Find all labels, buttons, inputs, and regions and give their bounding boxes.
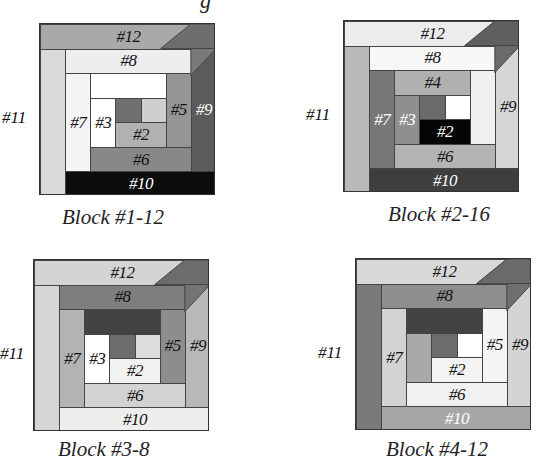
- patch-7: #7: [381, 308, 407, 407]
- patch-4: #4: [394, 70, 470, 96]
- patch-8: #8: [59, 285, 186, 311]
- patch-11: [40, 49, 66, 195]
- patch-2: #2: [419, 119, 470, 145]
- patch-10: #10: [369, 168, 519, 192]
- patch-3: #3: [84, 334, 110, 384]
- quilt-block-4: #12#8#9#10#7#6#5#2: [355, 258, 531, 430]
- patch-9: #9: [191, 49, 215, 173]
- patch-10: #10: [381, 406, 531, 430]
- patch-5: #5: [166, 73, 192, 148]
- outside-label-11: #11: [0, 344, 24, 364]
- top-text-fragment: g: [200, 0, 211, 14]
- patch-7: #7: [369, 70, 395, 169]
- patch-8: #8: [381, 284, 508, 310]
- quilt-block-3: #12#8#9#10#7#6#5#3#2: [33, 259, 209, 431]
- patch-9: #9: [495, 46, 519, 170]
- quilt-block-1: #12#8#9#10#7#6#5#3#2: [39, 23, 215, 195]
- patch-8: #8: [369, 46, 496, 72]
- patch-7: #7: [59, 309, 85, 408]
- patch-4: [90, 73, 166, 99]
- patch-12: #12: [356, 259, 531, 285]
- patch-2: #2: [115, 122, 166, 148]
- patch-c: [115, 98, 141, 124]
- patch-6: #6: [394, 144, 496, 170]
- patch-4: [84, 309, 160, 335]
- patch-1: [445, 95, 471, 121]
- patch-10: #10: [59, 407, 209, 431]
- patch-12: #12: [344, 21, 519, 47]
- patch-3: #3: [90, 98, 116, 148]
- patch-11: [34, 285, 60, 431]
- patch-10: #10: [65, 171, 215, 195]
- patch-5: #5: [482, 308, 508, 383]
- patch-3: [406, 333, 432, 383]
- patch-c: [109, 334, 135, 360]
- patch-9: #9: [507, 284, 531, 408]
- patch-1: [135, 334, 161, 360]
- block-caption: Block #4-12: [386, 437, 488, 462]
- patch-12: #12: [40, 24, 215, 50]
- patch-7: #7: [65, 73, 91, 172]
- patch-1: [141, 98, 167, 124]
- patch-c: [419, 95, 445, 121]
- block-caption: Block #3-8: [58, 437, 150, 462]
- patch-11: [344, 46, 370, 192]
- block-caption: Block #1-12: [62, 205, 164, 230]
- outside-label-11: #11: [2, 108, 26, 128]
- outside-label-11: #11: [318, 343, 342, 363]
- patch-2: #2: [109, 358, 160, 384]
- patch-11: [356, 284, 382, 430]
- patch-4: [406, 308, 482, 334]
- patch-5: [470, 70, 496, 145]
- patch-5: #5: [160, 309, 186, 384]
- patch-c: [431, 333, 457, 359]
- patch-6: #6: [90, 147, 192, 173]
- outside-label-11: #11: [306, 105, 330, 125]
- patch-2: #2: [431, 357, 482, 383]
- quilt-block-2: #12#8#9#10#7#6#4#3#2: [343, 20, 519, 192]
- patch-3: #3: [394, 95, 420, 145]
- patch-1: [457, 333, 483, 359]
- patch-6: #6: [84, 383, 186, 409]
- patch-12: #12: [34, 260, 209, 286]
- patch-6: #6: [406, 382, 508, 408]
- block-caption: Block #2-16: [388, 202, 490, 227]
- patch-8: #8: [65, 49, 192, 75]
- patch-9: #9: [185, 285, 209, 409]
